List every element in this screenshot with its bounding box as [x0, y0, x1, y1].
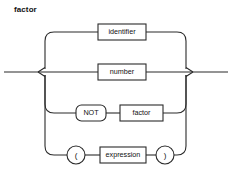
node-label-2-0: NOT [83, 108, 99, 117]
rails-group [4, 32, 228, 155]
node-label-0-0: identifier [108, 27, 136, 36]
branch-rail-right-3 [174, 75, 186, 155]
branch-rail-left-3 [45, 75, 67, 155]
branch-rail-left-0 [45, 32, 98, 69]
node-label-2-1: factor [133, 108, 152, 117]
branch-rail-right-2 [163, 75, 186, 113]
branch-rail-left-2 [45, 75, 76, 113]
node-label-3-1: expression [106, 150, 141, 159]
node-label-3-0: ( [75, 151, 78, 160]
nodes-group: identifiernumberNOTfactor(expression) [67, 24, 174, 164]
node-label-1-0: number [110, 67, 135, 76]
syntax-diagram-svg: identifiernumberNOTfactor(expression) [0, 0, 232, 185]
branch-rail-right-0 [146, 32, 186, 69]
node-label-3-2: ) [164, 151, 167, 160]
railroad-diagram: factor identifiernumberNOTfactor(express… [0, 0, 232, 185]
